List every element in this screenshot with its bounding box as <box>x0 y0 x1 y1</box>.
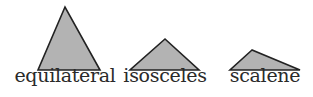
equilateral-triangle <box>38 7 100 70</box>
isosceles-label: isosceles <box>123 66 206 85</box>
scalene-label: scalene <box>230 66 300 85</box>
equilateral-label: equilateral <box>14 66 115 85</box>
